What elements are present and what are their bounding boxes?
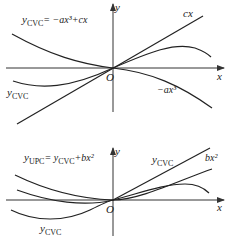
curve-ycvc-bottom <box>113 148 210 200</box>
label-ycvc-upper: yCVC <box>151 153 173 168</box>
origin-label-bottom: O <box>106 203 114 215</box>
label-ycvc-lower: yCVC <box>39 222 61 237</box>
label-neg-ax3: −ax³ <box>157 84 177 95</box>
x-axis-label-bottom: x <box>216 201 222 213</box>
label-cx: cx <box>183 7 193 19</box>
label-bx2: bx² <box>205 152 218 163</box>
bottom-diagram: y x O yUPC= yCVC+bx² yCVC bx² yCVC <box>6 145 224 237</box>
label-ycvc-top: yCVC <box>6 86 28 101</box>
formula-bottom: yUPC= yCVC+bx² <box>23 151 95 166</box>
y-axis-label-bottom: y <box>114 145 120 157</box>
diagram-canvas: y x O yCVC= −ax³+cx cx −ax³ yCVC y x O y… <box>0 0 232 251</box>
y-axis-label: y <box>114 1 120 13</box>
top-diagram: y x O yCVC= −ax³+cx cx −ax³ yCVC <box>6 1 224 124</box>
origin-label: O <box>106 71 114 83</box>
x-axis-label: x <box>216 70 222 82</box>
formula-top: yCVC= −ax³+cx <box>21 13 88 28</box>
